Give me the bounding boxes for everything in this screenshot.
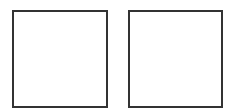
- right-square: [128, 10, 223, 108]
- left-square: [12, 10, 108, 108]
